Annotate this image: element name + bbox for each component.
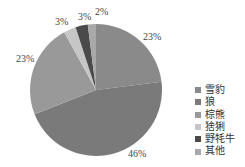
legend-swatch-icon <box>195 136 201 142</box>
legend-swatch-icon <box>195 112 201 118</box>
legend: 雪豹狼棕熊猞猁野牦牛其他 <box>195 84 235 158</box>
legend-label: 猞猁 <box>205 121 225 133</box>
legend-label: 狼 <box>205 96 215 108</box>
legend-item: 其他 <box>195 145 235 157</box>
legend-item: 狼 <box>195 96 235 108</box>
legend-swatch-icon <box>195 149 201 155</box>
legend-label: 其他 <box>205 145 225 157</box>
slice-label: 3% <box>78 11 91 22</box>
legend-label: 棕熊 <box>205 109 225 121</box>
legend-item: 猞猁 <box>195 121 235 133</box>
legend-swatch-icon <box>195 124 201 130</box>
slice-label: 23% <box>143 31 161 42</box>
legend-item: 棕熊 <box>195 109 235 121</box>
legend-swatch-icon <box>195 99 201 105</box>
slice-label: 23% <box>16 53 34 64</box>
legend-item: 雪豹 <box>195 84 235 96</box>
legend-label: 野牦牛 <box>205 133 235 145</box>
legend-item: 野牦牛 <box>195 133 235 145</box>
slice-label: 46% <box>128 148 146 159</box>
slice-label: 2% <box>95 6 108 17</box>
legend-swatch-icon <box>195 87 201 93</box>
legend-label: 雪豹 <box>205 84 225 96</box>
slice-label: 3% <box>55 16 68 27</box>
